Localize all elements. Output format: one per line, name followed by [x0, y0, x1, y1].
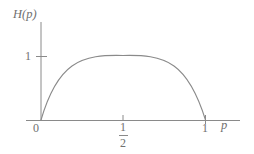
origin-tick-label: 0 [33, 122, 39, 134]
x-tick-label-one: 1 [202, 122, 208, 134]
y-tick-label-one: 1 [25, 50, 31, 62]
y-axis-label: H(p) [13, 8, 37, 21]
entropy-function-figure: H(p) p 1 0 1 2 1 [0, 0, 254, 154]
fraction-numerator: 1 [116, 121, 130, 134]
x-axis-label: p [221, 119, 227, 132]
entropy-curve [41, 55, 206, 120]
x-tick-label-one-half: 1 2 [116, 121, 130, 149]
fraction-denominator: 2 [116, 137, 130, 150]
